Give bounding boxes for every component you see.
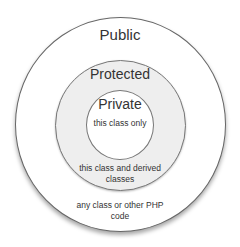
public-description: any class or other PHP code xyxy=(0,200,240,222)
protected-description: this class and derived classes xyxy=(0,163,240,185)
public-title: Public xyxy=(0,26,240,43)
public-description-line2: code xyxy=(0,211,240,222)
private-title: Private xyxy=(0,96,240,112)
protected-description-line1: this class and derived xyxy=(0,163,240,174)
protected-title: Protected xyxy=(0,66,240,82)
public-description-line1: any class or other PHP xyxy=(0,200,240,211)
private-description: this class only xyxy=(0,118,240,129)
protected-description-line2: classes xyxy=(0,174,240,185)
private-description-line1: this class only xyxy=(0,118,240,129)
